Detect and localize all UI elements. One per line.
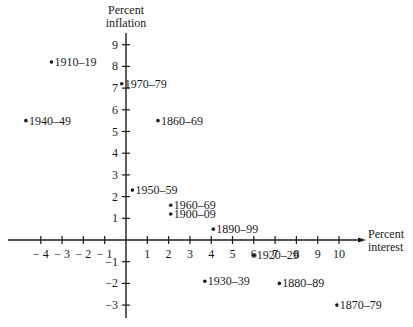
point-label: 1880–89 bbox=[282, 277, 324, 289]
y-tick-label: −3 bbox=[105, 299, 118, 311]
point-label: 1870–79 bbox=[340, 299, 382, 311]
y-tick-label: 4 bbox=[112, 147, 118, 159]
point-label: 1900–09 bbox=[174, 208, 216, 220]
point-label: 1930–39 bbox=[208, 275, 250, 287]
y-axis-title-line2: inflation bbox=[96, 17, 156, 30]
y-tick-label: 2 bbox=[112, 191, 118, 203]
y-tick-label: 9 bbox=[112, 39, 118, 51]
data-point bbox=[24, 119, 28, 123]
point-label: 1890–99 bbox=[216, 223, 258, 235]
data-point bbox=[335, 303, 339, 307]
y-axis-title: Percent inflation bbox=[96, 4, 156, 30]
y-tick-label: 1 bbox=[112, 212, 118, 224]
x-tick-label: − 4 bbox=[33, 248, 49, 260]
point-label: 1920–29 bbox=[257, 249, 299, 261]
x-tick-label: 1 bbox=[144, 248, 150, 260]
y-tick-label: 8 bbox=[112, 60, 118, 72]
point-label: 1970–79 bbox=[125, 78, 167, 90]
y-tick-label: 5 bbox=[112, 126, 118, 138]
y-tick-label: −2 bbox=[105, 277, 118, 289]
data-point bbox=[120, 82, 124, 86]
data-point bbox=[203, 279, 207, 283]
x-tick-label: 3 bbox=[187, 248, 193, 260]
x-tick-label: 4 bbox=[208, 248, 214, 260]
y-tick-label: 3 bbox=[112, 169, 118, 181]
point-label: 1940–49 bbox=[29, 115, 71, 127]
data-point bbox=[278, 282, 282, 286]
y-tick-label: 7 bbox=[112, 82, 118, 94]
x-axis-title-line2: interest bbox=[368, 241, 410, 254]
data-point bbox=[156, 119, 160, 123]
data-point bbox=[50, 60, 54, 64]
y-tick-label: −1 bbox=[105, 256, 118, 268]
point-label: 1910–19 bbox=[54, 56, 96, 68]
point-label: 1950–59 bbox=[135, 184, 177, 196]
x-tick-label: − 2 bbox=[76, 248, 92, 260]
y-tick-label: 6 bbox=[112, 104, 118, 116]
x-tick-label: 2 bbox=[166, 248, 172, 260]
x-tick-label: 10 bbox=[333, 248, 345, 260]
x-axis-title: Percent interest bbox=[368, 228, 410, 254]
x-tick-label: 9 bbox=[315, 248, 321, 260]
plot-area bbox=[0, 0, 413, 327]
data-point bbox=[131, 188, 135, 192]
data-point bbox=[212, 227, 216, 231]
scatter-chart: Percent inflation Percent interest − 4− … bbox=[0, 0, 413, 327]
data-point bbox=[169, 212, 173, 216]
data-point bbox=[169, 203, 173, 207]
point-label: 1860–69 bbox=[161, 115, 203, 127]
x-axis-arrow-icon bbox=[358, 238, 366, 243]
x-tick-label: 5 bbox=[230, 248, 236, 260]
x-tick-label: − 3 bbox=[54, 248, 70, 260]
